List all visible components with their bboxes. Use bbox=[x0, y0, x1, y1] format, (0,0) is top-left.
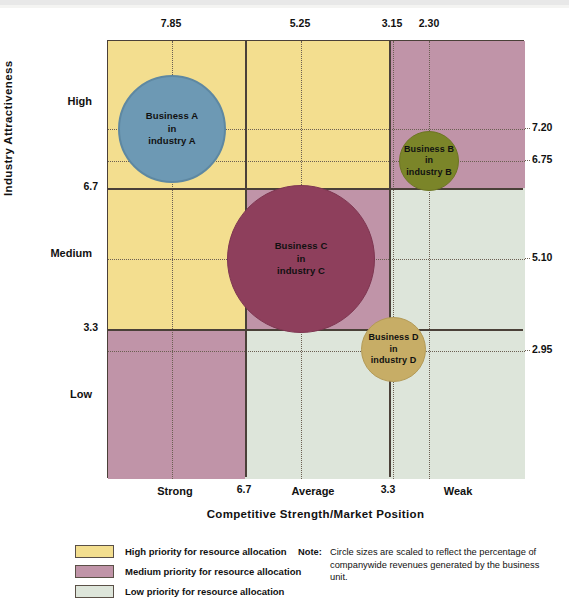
note-block: Note: Circle sizes are scaled to reflect… bbox=[298, 546, 548, 584]
y-category-low: Low bbox=[30, 388, 92, 400]
y-category-high: High bbox=[30, 95, 92, 107]
matrix-plot-area[interactable]: Business A in industry A Business C in i… bbox=[107, 40, 524, 478]
bubble-c-line1: Business C bbox=[275, 240, 328, 253]
bubble-a-line3: industry A bbox=[148, 135, 196, 148]
bubble-b-line1: Business B bbox=[404, 144, 454, 156]
legend-label-low: Low priority for resource allocation bbox=[125, 586, 284, 597]
bubble-business-c[interactable]: Business C in industry C bbox=[227, 185, 375, 333]
bubble-business-b[interactable]: Business B in industry B bbox=[399, 131, 459, 191]
bubble-d-line3: industry D bbox=[371, 355, 417, 367]
y-category-medium: Medium bbox=[20, 247, 92, 259]
bubble-b-line2: in bbox=[425, 155, 433, 167]
bubble-c-line2: in bbox=[297, 253, 306, 266]
legend-swatch-high bbox=[75, 545, 114, 558]
bubble-d-line2: in bbox=[389, 344, 397, 356]
y-axis-title: Industry Attractiveness bbox=[2, 0, 14, 196]
x-category-average: Average bbox=[278, 485, 348, 497]
bubble-a-line2: in bbox=[168, 123, 177, 136]
bubble-business-d[interactable]: Business D in industry D bbox=[361, 317, 426, 382]
legend-swatch-medium bbox=[75, 565, 114, 578]
cell-high-average[interactable] bbox=[245, 41, 389, 188]
legend-label-high: High priority for resource allocation bbox=[125, 546, 287, 557]
grid-divider-vertical-right bbox=[389, 41, 391, 477]
legend-item-high[interactable]: High priority for resource allocation bbox=[75, 542, 301, 560]
legend: High priority for resource allocation Me… bbox=[75, 542, 301, 602]
x-callout-business-b: 2.30 bbox=[405, 17, 453, 29]
note-body: Circle sizes are scaled to reflect the p… bbox=[330, 546, 548, 584]
x-callout-business-c: 5.25 bbox=[275, 17, 325, 29]
scan-artifact-top-secondary bbox=[0, 5, 569, 8]
y-callout-business-b: 6.75 bbox=[532, 153, 552, 165]
x-tick-left: 6.7 bbox=[222, 483, 266, 495]
x-callout-business-a: 7.85 bbox=[146, 17, 196, 29]
y-tick-lower: 3.3 bbox=[52, 321, 98, 333]
leader-line-y-d-inner bbox=[108, 351, 525, 353]
x-category-strong: Strong bbox=[140, 485, 210, 497]
note-label: Note: bbox=[298, 547, 322, 557]
legend-item-low[interactable]: Low priority for resource allocation bbox=[75, 582, 301, 600]
y-callout-business-d: 2.95 bbox=[532, 343, 552, 355]
y-callout-business-a: 7.20 bbox=[532, 121, 552, 133]
bubble-d-line1: Business D bbox=[368, 332, 418, 344]
legend-label-medium: Medium priority for resource allocation bbox=[125, 566, 301, 577]
x-tick-right: 3.3 bbox=[366, 483, 410, 495]
y-tick-upper: 6.7 bbox=[52, 180, 98, 192]
x-category-weak: Weak bbox=[423, 485, 493, 497]
legend-item-medium[interactable]: Medium priority for resource allocation bbox=[75, 562, 301, 580]
bubble-business-a[interactable]: Business A in industry A bbox=[118, 75, 226, 183]
bubble-a-line1: Business A bbox=[146, 110, 198, 123]
legend-swatch-low bbox=[75, 585, 114, 598]
bubble-c-line3: industry C bbox=[277, 265, 325, 278]
y-callout-business-c: 5.10 bbox=[532, 251, 552, 263]
x-axis-title: Competitive Strength/Market Position bbox=[107, 508, 524, 520]
bubble-b-line3: industry B bbox=[406, 167, 452, 179]
